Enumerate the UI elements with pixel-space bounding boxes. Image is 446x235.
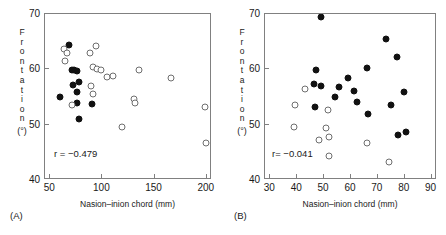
data-point-open	[322, 124, 329, 131]
y-axis-tick	[264, 124, 269, 125]
x-axis-tick-label: 40	[291, 182, 302, 193]
x-axis-tick	[269, 174, 270, 179]
data-point-filled	[382, 35, 389, 42]
data-point-filled	[364, 64, 371, 71]
y-axis-tick	[44, 124, 49, 125]
x-axis-tick	[431, 174, 432, 179]
data-point-open	[202, 140, 209, 147]
data-point-open	[98, 66, 105, 73]
data-point-open	[131, 100, 138, 107]
panel-a: Frontation(°) 50100150200 40506070 r = −…	[0, 0, 223, 235]
data-point-open	[202, 103, 209, 110]
x-axis-tick-label: 60	[344, 182, 355, 193]
data-point-filled	[402, 129, 409, 136]
x-axis-title-a: Nasion–inion chord (mm)	[44, 199, 211, 209]
correlation-label-b: r= −0.041	[272, 148, 313, 159]
data-point-open	[136, 66, 143, 73]
x-axis-tick-label: 90	[425, 182, 436, 193]
data-point-open	[62, 58, 69, 65]
data-point-filled	[393, 53, 400, 60]
panel-b: Frontation(°) 30405060708090 40506070 r=…	[223, 0, 446, 235]
data-point-open	[167, 75, 174, 82]
data-point-open	[93, 42, 100, 49]
y-axis-tick-label: 70	[240, 8, 260, 19]
y-axis-tick	[264, 68, 269, 69]
x-axis-tick	[350, 174, 351, 179]
x-axis-tick	[377, 174, 378, 179]
y-axis-tick	[44, 68, 49, 69]
data-point-filled	[364, 110, 371, 117]
data-point-open	[110, 72, 117, 79]
data-point-filled	[73, 67, 80, 74]
x-axis-title-b: Nasion–inion chord (mm)	[264, 199, 436, 209]
data-point-open	[385, 159, 392, 166]
data-point-filled	[332, 94, 339, 101]
y-axis-tick-label: 40	[20, 174, 40, 185]
data-point-open	[301, 85, 308, 92]
data-point-open	[118, 123, 125, 130]
x-axis-tick	[323, 174, 324, 179]
panel-tag-a: (A)	[10, 210, 23, 221]
data-point-open	[87, 82, 94, 89]
y-axis-tick-label: 60	[240, 63, 260, 74]
panel-tag-b: (B)	[234, 210, 247, 221]
data-point-filled	[317, 14, 324, 21]
data-point-open	[325, 152, 332, 159]
correlation-label-a: r = −0.479	[54, 148, 97, 159]
x-axis-tick-label: 200	[197, 182, 214, 193]
x-axis-tick-label: 50	[44, 182, 55, 193]
data-point-open	[291, 124, 298, 131]
x-axis-tick	[296, 174, 297, 179]
data-point-open	[326, 133, 333, 140]
data-point-filled	[312, 66, 319, 73]
data-point-open	[291, 102, 298, 109]
data-point-open	[90, 90, 97, 97]
data-point-open	[63, 50, 70, 57]
y-axis-tick-label: 40	[240, 174, 260, 185]
data-point-open	[316, 136, 323, 143]
x-axis-tick-label: 30	[264, 182, 275, 193]
data-point-filled	[89, 100, 96, 107]
data-point-filled	[318, 83, 325, 90]
data-point-filled	[311, 80, 318, 87]
data-point-open	[364, 140, 371, 147]
x-axis-tick	[404, 174, 405, 179]
x-axis-tick	[154, 174, 155, 179]
data-point-filled	[395, 131, 402, 138]
data-point-filled	[354, 98, 361, 105]
data-point-open	[325, 107, 332, 114]
data-point-filled	[312, 103, 319, 110]
data-point-filled	[75, 79, 82, 86]
x-axis-tick-label: 80	[398, 182, 409, 193]
x-axis-tick-label: 50	[318, 182, 329, 193]
figure-scatter-pair: Frontation(°) 50100150200 40506070 r = −…	[0, 0, 446, 235]
data-point-filled	[351, 88, 358, 95]
x-axis-tick-label: 70	[371, 182, 382, 193]
y-axis-tick-label: 60	[20, 63, 40, 74]
data-point-filled	[76, 115, 83, 122]
x-axis-tick	[49, 174, 50, 179]
data-point-open	[69, 101, 76, 108]
x-axis-tick	[101, 174, 102, 179]
data-point-filled	[388, 102, 395, 109]
y-axis-tick-label: 50	[20, 118, 40, 129]
data-point-filled	[57, 94, 64, 101]
data-point-filled	[74, 89, 81, 96]
x-axis-tick	[206, 174, 207, 179]
data-point-filled	[401, 89, 408, 96]
y-axis-tick-label: 70	[20, 8, 40, 19]
data-point-filled	[345, 75, 352, 82]
y-axis-tick-label: 50	[240, 118, 260, 129]
x-axis-tick-label: 150	[145, 182, 162, 193]
data-point-open	[87, 49, 94, 56]
x-axis-tick-label: 100	[93, 182, 110, 193]
data-point-filled	[336, 84, 343, 91]
